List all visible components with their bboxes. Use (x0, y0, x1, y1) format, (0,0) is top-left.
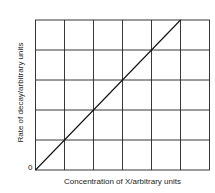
x-axis-label: Concentration of X/arbitrary units (35, 177, 210, 186)
origin-label: 0 (28, 163, 32, 172)
grid (36, 20, 210, 170)
data-line (36, 20, 181, 170)
y-axis-label: Rate of decay/arbitrary units (16, 23, 25, 163)
